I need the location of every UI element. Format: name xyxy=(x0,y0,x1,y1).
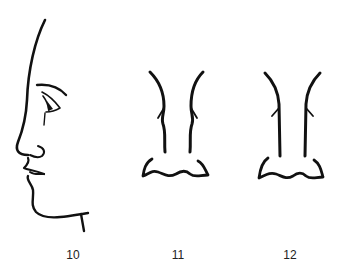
frontal-nose-drawing-12 xyxy=(259,73,323,178)
figure-label-12: 12 xyxy=(283,248,296,262)
nose-illustration xyxy=(0,0,337,272)
figure-label-10: 10 xyxy=(66,248,79,262)
figure-label-11: 11 xyxy=(172,248,184,262)
frontal-nose-drawing-11 xyxy=(143,72,208,176)
profile-face-drawing xyxy=(17,20,88,231)
